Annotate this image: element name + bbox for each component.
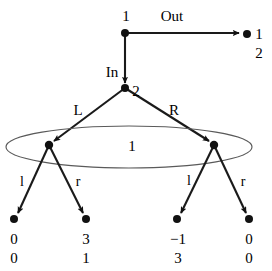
- payoff-right-l-player2: 3: [174, 251, 182, 266]
- payoff-left-r-player1: 3: [82, 232, 90, 247]
- player2-node-label: 2: [132, 84, 140, 99]
- edge-right-l: [181, 145, 214, 213]
- action-label-left-r: r: [76, 175, 81, 189]
- action-label-big-r: R: [169, 103, 179, 118]
- action-label-big-l: L: [73, 103, 82, 118]
- payoff-left-l-player1: 0: [10, 232, 18, 247]
- information-set-player-label: 1: [128, 139, 136, 154]
- game-tree-figure: 1 2 1 Out In L R l r l r 1 2 0 0 3 1 −1 …: [0, 0, 272, 271]
- node-root-player1[interactable]: [121, 29, 129, 37]
- terminal-node-out[interactable]: [243, 30, 251, 38]
- action-label-out: Out: [161, 9, 184, 24]
- action-label-right-r: r: [241, 175, 246, 189]
- action-label-in: In: [106, 65, 119, 80]
- action-label-right-l: l: [187, 174, 191, 188]
- payoff-out-player1: 1: [255, 27, 263, 42]
- node-infoset-right[interactable]: [210, 141, 218, 149]
- terminal-node-right-l[interactable]: [173, 215, 181, 223]
- node-infoset-left[interactable]: [45, 141, 53, 149]
- payoff-left-l-player2: 0: [10, 251, 18, 266]
- payoff-right-r-player2: 0: [245, 251, 253, 266]
- game-tree-canvas: [0, 0, 272, 271]
- payoff-right-r-player1: 0: [245, 232, 253, 247]
- edge-big-l: [54, 88, 125, 141]
- action-label-left-l: l: [20, 175, 24, 189]
- terminal-node-right-r[interactable]: [245, 215, 253, 223]
- terminal-node-left-l[interactable]: [10, 215, 18, 223]
- payoff-right-l-player1: −1: [170, 232, 186, 247]
- terminal-node-left-r[interactable]: [82, 215, 90, 223]
- payoff-out-player2: 2: [255, 46, 263, 61]
- node-player2[interactable]: [121, 84, 129, 92]
- payoff-left-r-player2: 1: [82, 251, 90, 266]
- root-player-label: 1: [122, 9, 130, 24]
